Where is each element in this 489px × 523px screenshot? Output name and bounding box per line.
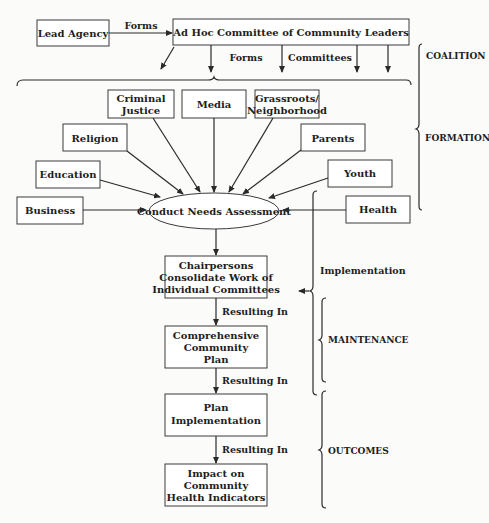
- ad-hoc-committee-node: Ad Hoc Committee of Community Leaders: [172, 19, 409, 45]
- grassroots-arrow: [229, 118, 273, 192]
- grassroots-label: Grassroots/: [255, 93, 319, 104]
- plan-implementation-label: Implementation: [171, 415, 262, 426]
- committees-brace: [17, 77, 411, 86]
- criminal-justice-label: Justice: [121, 105, 161, 116]
- formation-phase-label: FORMATION: [425, 133, 489, 143]
- plan-implementation-node: Plan Implementation: [165, 394, 267, 436]
- plan-implementation-label: Plan: [203, 402, 229, 413]
- comprehensive-plan-node: Comprehensive Community Plan: [165, 326, 267, 368]
- implementation-label: Implementation: [320, 265, 406, 276]
- impact-label: Community: [184, 480, 250, 491]
- resulting-in-label: Resulting In: [222, 306, 288, 317]
- committees-label: Committees: [288, 52, 352, 63]
- outcomes-brace: [319, 391, 326, 508]
- religion-node: Religion: [63, 124, 127, 151]
- ad-hoc-committee-label: Ad Hoc Committee of Community Leaders: [172, 27, 409, 38]
- ad-hoc-arrow: [161, 47, 174, 69]
- community-coalition-diagram: Lead Agency Forms Ad Hoc Committee of Co…: [0, 0, 489, 523]
- parents-node: Parents: [301, 124, 365, 151]
- media-node: Media: [182, 90, 246, 118]
- needs-assessment-node: Conduct Needs Assessment: [137, 193, 291, 229]
- coalition-formation-brace: [416, 44, 422, 210]
- impact-label: Health Indicators: [167, 492, 266, 503]
- grassroots-node: Grassroots/ Neighborhood: [247, 90, 327, 118]
- parents-arrow: [243, 150, 301, 194]
- chairpersons-label: Chairpersons: [179, 260, 254, 271]
- criminal-justice-node: Criminal Justice: [108, 90, 174, 118]
- impact-label: Impact on: [188, 468, 246, 479]
- chairpersons-label: Consolidate Work of: [159, 272, 273, 283]
- religion-label: Religion: [71, 133, 119, 144]
- parents-label: Parents: [312, 133, 355, 144]
- comprehensive-plan-label: Comprehensive: [173, 330, 259, 341]
- criminal-justice-label: Criminal: [117, 93, 166, 104]
- youth-label: Youth: [343, 168, 377, 179]
- media-label: Media: [197, 99, 232, 110]
- youth-node: Youth: [328, 160, 392, 187]
- comprehensive-plan-label: Community: [184, 342, 250, 353]
- chairpersons-node: Chairpersons Consolidate Work of Individ…: [152, 256, 280, 298]
- education-label: Education: [40, 169, 98, 180]
- coalition-phase-label: COALITION: [426, 51, 486, 61]
- resulting-in-label: Resulting In: [222, 444, 288, 455]
- chairpersons-label: Individual Committees: [152, 284, 280, 295]
- criminal-justice-arrow: [153, 118, 200, 192]
- health-node: Health: [346, 196, 410, 223]
- resulting-in-label: Resulting In: [222, 375, 288, 386]
- forms-label-2: Forms: [230, 52, 263, 63]
- religion-arrow: [127, 151, 183, 194]
- business-label: Business: [25, 205, 75, 216]
- implementation-brace: [310, 191, 317, 395]
- comprehensive-plan-label: Plan: [203, 354, 229, 365]
- lead-agency-label: Lead Agency: [38, 28, 110, 39]
- outcomes-phase-label: OUTCOMES: [328, 446, 389, 456]
- grassroots-label: Neighborhood: [247, 105, 327, 116]
- maintenance-phase-label: MAINTENANCE: [328, 335, 409, 345]
- youth-arrow: [269, 178, 328, 198]
- education-node: Education: [36, 161, 100, 188]
- lead-agency-node: Lead Agency: [37, 20, 109, 46]
- impact-node: Impact on Community Health Indicators: [165, 464, 267, 506]
- business-node: Business: [17, 197, 83, 224]
- education-arrow: [100, 180, 160, 197]
- needs-assessment-label: Conduct Needs Assessment: [137, 206, 291, 217]
- health-label: Health: [359, 204, 398, 215]
- maintenance-brace: [319, 298, 326, 382]
- forms-label: Forms: [125, 20, 158, 31]
